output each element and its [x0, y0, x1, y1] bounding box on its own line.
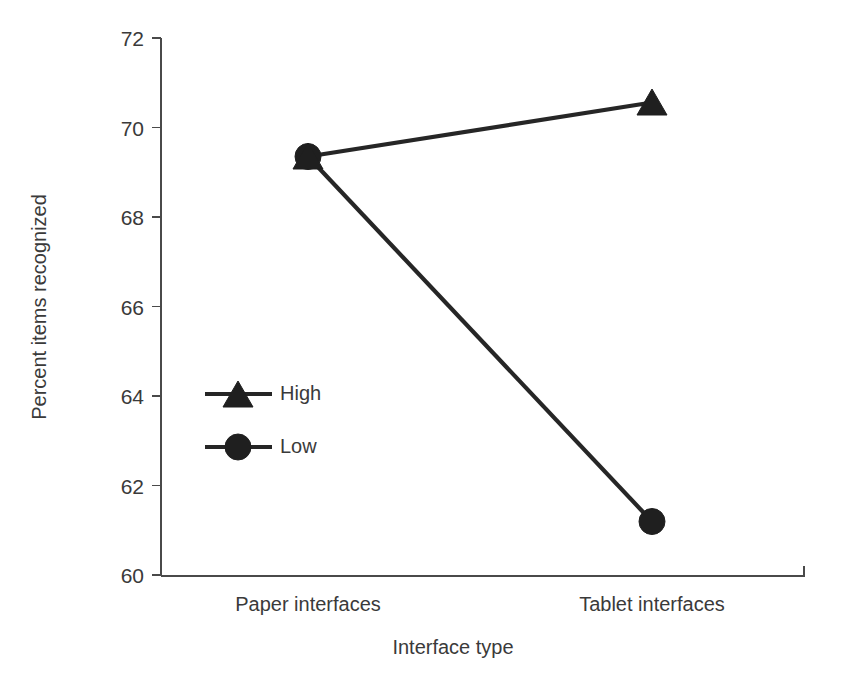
y-tick-label-62: 62 [121, 475, 144, 498]
y-axis-title: Percent items recognized [28, 194, 50, 420]
legend-label-low: Low [280, 435, 317, 457]
y-tick-label-70: 70 [121, 117, 144, 140]
circle-marker-icon [225, 434, 251, 460]
line-chart-figure: 72 70 68 66 64 62 60 Percent items recog… [0, 0, 850, 690]
chart-canvas: 72 70 68 66 64 62 60 Percent items recog… [0, 0, 850, 690]
data-point-low-tablet [639, 509, 665, 535]
x-category-label-paper: Paper interfaces [235, 593, 381, 615]
y-tick-label-60: 60 [121, 564, 144, 587]
y-tick-label-68: 68 [121, 206, 144, 229]
y-tick-label-66: 66 [121, 296, 144, 319]
y-tick-label-64: 64 [121, 385, 145, 408]
x-axis-title: Interface type [392, 636, 513, 658]
x-category-label-tablet: Tablet interfaces [579, 593, 725, 615]
y-tick-label-72: 72 [121, 27, 144, 50]
legend-label-high: High [280, 382, 321, 404]
